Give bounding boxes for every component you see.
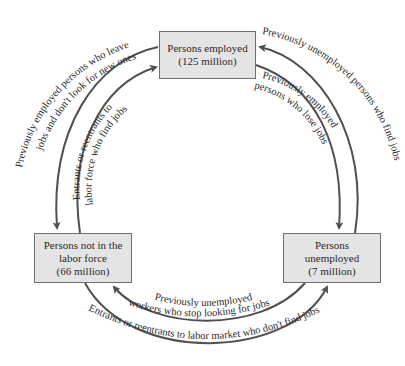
node-persons-unemployed: Persons unemployed (7 million) <box>283 233 381 283</box>
node-persons-not-in-labor-force: Persons not in the labor force (66 milli… <box>34 233 132 283</box>
labor-flow-diagram: Previously employed persons who leave jo… <box>0 0 405 366</box>
label-not-in-lf-to-employed-2: labor force who find jobs <box>83 103 130 207</box>
node-not-in-lf-count: (66 million) <box>57 265 110 278</box>
node-employed-count: (125 million) <box>178 55 236 68</box>
node-not-in-lf-title-2: labor force <box>59 252 107 265</box>
node-unemployed-title-2: unemployed <box>305 252 359 265</box>
node-not-in-lf-title-1: Persons not in the <box>44 239 123 252</box>
node-unemployed-title-1: Persons <box>315 239 349 252</box>
node-unemployed-count: (7 million) <box>308 265 355 278</box>
node-employed-title: Persons employed <box>167 42 247 55</box>
node-persons-employed: Persons employed (125 million) <box>159 31 256 79</box>
label-employed-to-not-in-lf-1: Previously employed persons who leave <box>13 39 130 169</box>
